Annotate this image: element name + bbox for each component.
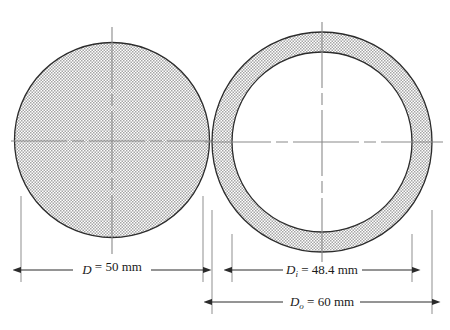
dim-value: 60 [318,294,331,309]
dim-symbol: D [285,262,296,277]
dim-equals: = [307,294,314,309]
dim-unit: mm [334,294,354,309]
dim-symbol: D [289,294,300,309]
hollow-tube [210,30,436,256]
dim-unit: mm [122,259,142,274]
dimension-tube-inner-diameter: Di = 48.4 mm [232,262,412,279]
dim-value: 50 [105,259,118,274]
dim-equals: = [301,262,308,277]
dimension-solid-diameter: D = 50 mm [21,259,203,277]
dim-value: 48.4 [312,262,335,277]
dimension-label-inner: Di = 48.4 mm [285,262,358,279]
dimension-label-solid: D = 50 mm [81,259,142,277]
dim-equals: = [95,259,102,274]
figure-root: D = 50 mm Di = 48.4 mm Do = 60 mm [0,0,450,330]
dimension-label-outer: Do = 60 mm [289,294,354,311]
dim-symbol: D [81,262,92,277]
dim-unit: mm [338,262,358,277]
dimension-tube-outer-diameter: Do = 60 mm [212,294,432,311]
cross-section-diagram: D = 50 mm Di = 48.4 mm Do = 60 mm [0,0,450,330]
